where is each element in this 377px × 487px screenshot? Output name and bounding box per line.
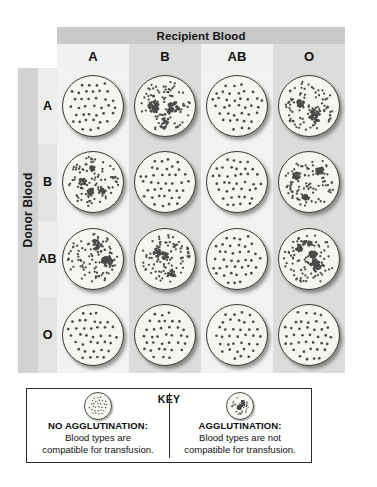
- cell-donor-a-recipient-o: [273, 68, 345, 144]
- donor-blood-axis-label: Donor Blood: [18, 118, 38, 302]
- no-agglutination-dish: [206, 304, 268, 366]
- agglutination-dish: [278, 228, 340, 290]
- agglutination-dish-icon: [226, 392, 254, 420]
- row-header-ab: AB: [38, 221, 57, 297]
- no-agglutination-dish-icon: [84, 392, 112, 420]
- cell-donor-b-recipient-b: [129, 144, 201, 220]
- no-agglutination-dish: [278, 304, 340, 366]
- key-legend-box: KEY NO AGGLUTINATION: Blood types are co…: [26, 388, 312, 463]
- no-agglutination-dish: [206, 75, 268, 137]
- key-no-agglutination-heading: NO AGGLUTINATION:: [27, 420, 169, 431]
- cell-donor-b-recipient-o: [273, 144, 345, 220]
- no-agglutination-dish: [62, 75, 124, 137]
- key-no-agglutination-line1: Blood types are: [27, 432, 169, 443]
- key-agglutination: AGGLUTINATION: Blood types are not compa…: [169, 389, 311, 462]
- cell-donor-ab-recipient-b: [129, 221, 201, 297]
- key-agglutination-circle-holder: [169, 392, 311, 420]
- column-header-a: A: [57, 44, 129, 68]
- cell-donor-b-recipient-a: [57, 144, 129, 220]
- key-agglutination-line2: compatible for transfusion.: [169, 444, 311, 455]
- recipient-blood-title-band: Recipient Blood: [57, 27, 345, 44]
- cell-donor-ab-recipient-ab: [201, 221, 273, 297]
- no-agglutination-dish: [134, 151, 196, 213]
- cell-donor-o-recipient-b: [129, 297, 201, 373]
- agglutination-dish: [62, 151, 124, 213]
- row-header-o: O: [38, 297, 57, 373]
- blood-transfusion-compatibility-figure: Recipient Blood ABABO Donor Blood ABABO …: [0, 0, 377, 487]
- row-header-a: A: [38, 68, 57, 144]
- cell-donor-a-recipient-a: [57, 68, 129, 144]
- cell-donor-a-recipient-ab: [201, 68, 273, 144]
- key-no-agglutination-circle-holder: [27, 392, 169, 420]
- cell-donor-o-recipient-o: [273, 297, 345, 373]
- compatibility-grid: Donor Blood ABABO: [18, 68, 345, 373]
- no-agglutination-dish: [206, 151, 268, 213]
- cell-donor-o-recipient-a: [57, 297, 129, 373]
- cell-donor-a-recipient-b: [129, 68, 201, 144]
- agglutination-dish: [278, 151, 340, 213]
- agglutination-dish: [134, 75, 196, 137]
- cell-donor-ab-recipient-o: [273, 221, 345, 297]
- recipient-column-headers: ABABO: [57, 44, 345, 68]
- row-header-b: B: [38, 144, 57, 220]
- donor-row-labels: ABABO: [38, 68, 57, 373]
- column-header-ab: AB: [201, 44, 273, 68]
- key-no-agglutination: NO AGGLUTINATION: Blood types are compat…: [27, 389, 169, 462]
- column-header-b: B: [129, 44, 201, 68]
- page-title: Recipient Blood: [57, 27, 345, 44]
- donor-blood-spine: Donor Blood: [18, 68, 38, 373]
- key-agglutination-line1: Blood types are not: [169, 432, 311, 443]
- cell-donor-b-recipient-ab: [201, 144, 273, 220]
- petri-dish-cells: [57, 68, 345, 373]
- column-header-o: O: [273, 44, 345, 68]
- agglutination-dish: [278, 75, 340, 137]
- agglutination-dish: [62, 228, 124, 290]
- agglutination-dish: [134, 228, 196, 290]
- cell-donor-ab-recipient-a: [57, 221, 129, 297]
- key-no-agglutination-line2: compatible for transfusion.: [27, 444, 169, 455]
- key-agglutination-heading: AGGLUTINATION:: [169, 420, 311, 431]
- no-agglutination-dish: [134, 304, 196, 366]
- cell-donor-o-recipient-ab: [201, 297, 273, 373]
- no-agglutination-dish: [62, 304, 124, 366]
- no-agglutination-dish: [206, 228, 268, 290]
